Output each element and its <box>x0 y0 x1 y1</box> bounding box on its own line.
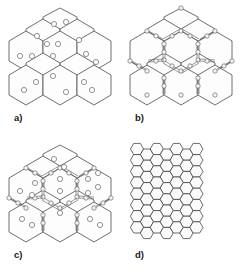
hex-cell <box>190 143 203 154</box>
panel-b-hex-cells <box>130 8 232 105</box>
panel-d: d) <box>121 137 242 274</box>
panel-b-label: b) <box>135 112 144 124</box>
hex-cell <box>190 155 203 166</box>
hex-cell <box>190 166 203 177</box>
panel-a-diagram <box>0 0 121 116</box>
hex-cell <box>190 211 203 222</box>
figure-hexagonal-lattice-models: a) <box>0 0 243 274</box>
panel-b-diagram <box>121 0 242 116</box>
panel-d-diagram <box>121 137 242 253</box>
hex-cell <box>190 222 203 233</box>
panel-c-diagram <box>0 137 121 253</box>
panel-d-hex-mesh <box>130 143 203 238</box>
hex-cell <box>190 177 203 188</box>
panel-a: a) <box>0 0 121 137</box>
panel-c: c) <box>0 137 121 274</box>
hex-cell <box>190 188 203 199</box>
panel-c-label: c) <box>14 249 22 261</box>
hex-cell <box>190 199 203 210</box>
panel-b: b) <box>121 0 242 137</box>
panel-a-label: a) <box>14 112 22 124</box>
panel-d-label: d) <box>135 249 144 261</box>
